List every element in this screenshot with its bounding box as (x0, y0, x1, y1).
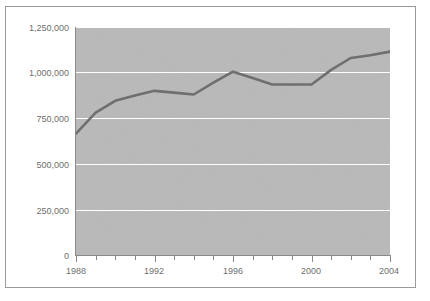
x-tick-label-1988: 1988 (66, 266, 86, 276)
plot-area-background (76, 27, 390, 255)
x-tick-label-2000: 2000 (301, 266, 321, 276)
y-tick-label-1000000: 1,000,000 (29, 68, 69, 78)
x-tick-label-1996: 1996 (223, 266, 243, 276)
x-axis-tick-labels: 1988 1992 1996 2000 2004 (66, 266, 399, 276)
x-tick-label-2004: 2004 (379, 266, 399, 276)
line-chart: 1,250,000 1,000,000 750,000 500,000 250,… (0, 0, 430, 301)
y-tick-label-1250000: 1,250,000 (29, 23, 69, 33)
x-axis-ticks (77, 256, 391, 262)
y-tick-label-0: 0 (64, 251, 69, 261)
y-tick-label-250000: 250,000 (36, 206, 69, 216)
y-tick-label-500000: 500,000 (36, 160, 69, 170)
y-axis-tick-labels: 1,250,000 1,000,000 750,000 500,000 250,… (29, 23, 69, 261)
y-tick-label-750000: 750,000 (36, 114, 69, 124)
chart-figure: 1,250,000 1,000,000 750,000 500,000 250,… (0, 0, 430, 301)
x-tick-label-1992: 1992 (144, 266, 164, 276)
